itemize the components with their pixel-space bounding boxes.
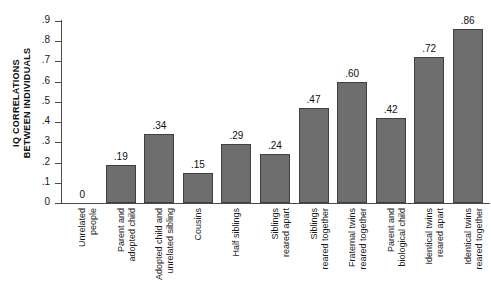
bar-value-label: .72 — [406, 43, 453, 54]
bar-value-label: .42 — [367, 104, 414, 115]
bar — [144, 134, 174, 203]
x-axis-category-label: Parent and biological child — [386, 208, 407, 304]
x-axis-category-label: Fraternal twins reared together — [347, 208, 368, 304]
iq-correlation-bar-chart: IQ CORRELATIONS BETWEEN INDIVIDUALS .9.8… — [0, 0, 491, 307]
x-axis-category-label: Identical twins reared together — [463, 208, 484, 304]
x-axis-category-label: Siblings reared apart — [270, 208, 291, 304]
bar-value-label: .34 — [136, 120, 183, 131]
bar-value-label: .47 — [290, 94, 337, 105]
bar — [260, 154, 290, 203]
bar — [337, 82, 367, 203]
bar-value-label: .60 — [329, 68, 376, 79]
bar — [453, 29, 483, 203]
bar — [106, 165, 136, 203]
x-axis-category-label: Siblings reared together — [309, 208, 330, 304]
x-axis-category-label: Adopted child and unrelated sibling — [154, 208, 175, 304]
x-axis-category-label: Half siblings — [231, 208, 242, 304]
bar-value-label: .24 — [252, 140, 299, 151]
x-axis-category-label: Unrelated people — [77, 208, 98, 304]
x-axis-category-label: Cousins — [193, 208, 204, 304]
x-axis-category-label: Parent and adopted child — [116, 208, 137, 304]
bar-value-label: 0 — [59, 189, 106, 200]
x-axis-category-label: Identical twins reared apart — [424, 208, 445, 304]
bar — [376, 118, 406, 203]
plot-area: 0Unrelated people.19Parent and adopted c… — [0, 0, 491, 307]
bar — [299, 108, 329, 203]
bar — [183, 173, 213, 203]
bar-value-label: .15 — [175, 159, 222, 170]
bar-value-label: .86 — [444, 15, 491, 26]
bar — [221, 144, 251, 203]
bar-value-label: .19 — [98, 151, 145, 162]
bar — [414, 57, 444, 203]
